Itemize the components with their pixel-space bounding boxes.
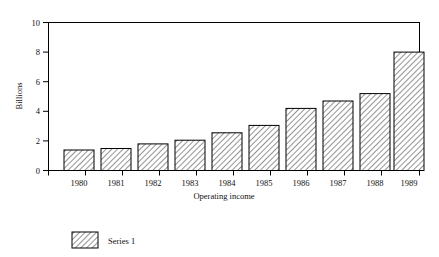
bar-1981 [101, 149, 131, 171]
y-tick-label-8: 8 [36, 47, 40, 57]
x-tick-label-1984: 1984 [219, 178, 237, 188]
bar-1988 [360, 94, 390, 171]
x-axis-title: Operating income [193, 191, 254, 201]
x-tick-label-1989: 1989 [401, 178, 418, 188]
bar-1986 [286, 108, 316, 170]
x-tick-label-1988: 1988 [367, 178, 384, 188]
y-tick-label-6: 6 [36, 77, 40, 87]
x-axis-ticks [49, 171, 420, 176]
bar-1982 [138, 144, 168, 171]
bar-1983 [175, 140, 205, 170]
bar-1989 [394, 52, 424, 170]
x-tick-label-1987: 1987 [330, 178, 347, 188]
x-tick-label-1985: 1985 [256, 178, 273, 188]
bar-1985 [249, 125, 279, 170]
y-tick-label-0: 0 [36, 166, 40, 176]
bar-1980 [64, 150, 94, 171]
x-tick-label-1982: 1982 [145, 178, 162, 188]
y-axis-ticks [43, 23, 48, 171]
y-axis-title: Billions [14, 83, 24, 110]
bar-chart-figure: 0 2 4 6 8 10 Billions [0, 0, 439, 257]
x-tick-label-1981: 1981 [108, 178, 125, 188]
x-tick-label-1986: 1986 [293, 178, 310, 188]
y-tick-label-4: 4 [36, 106, 41, 116]
x-tick-label-1980: 1980 [71, 178, 88, 188]
y-tick-label-10: 10 [32, 18, 41, 28]
legend-swatch-series-1 [72, 232, 98, 248]
chart-legend: Series 1 [72, 232, 135, 248]
legend-label-series-1: Series 1 [108, 236, 135, 246]
y-tick-label-2: 2 [36, 136, 40, 146]
x-tick-label-1983: 1983 [182, 178, 199, 188]
bar-1984 [212, 133, 242, 171]
chart-canvas: 0 2 4 6 8 10 Billions [0, 0, 439, 257]
bar-1987 [323, 101, 353, 171]
